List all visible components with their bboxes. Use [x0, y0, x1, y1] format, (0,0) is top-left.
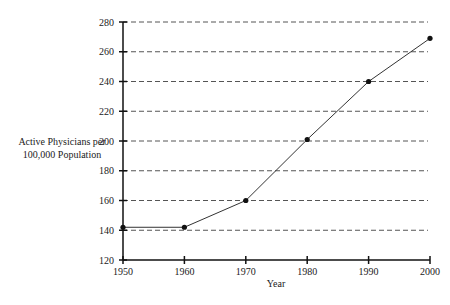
y-tick-label-260: 260	[99, 46, 114, 57]
x-axis-title: Year	[267, 278, 286, 289]
x-tick-label-2000: 2000	[420, 266, 440, 277]
x-tick-label-1990: 1990	[359, 266, 379, 277]
series-line	[123, 38, 430, 227]
y-axis-title-line-2: 100,000 Population	[23, 149, 101, 160]
y-tick-label-140: 140	[99, 225, 114, 236]
data-point-1960	[182, 225, 187, 230]
x-tick-label-1950: 1950	[113, 266, 133, 277]
data-point-2000	[427, 36, 432, 41]
y-tick-label-240: 240	[99, 76, 114, 87]
x-tick-label-1970: 1970	[236, 266, 256, 277]
y-tick-label-160: 160	[99, 195, 114, 206]
data-point-1990	[366, 79, 371, 84]
gridlines	[123, 22, 428, 230]
y-tick-label-120: 120	[99, 255, 114, 266]
data-point-1950	[120, 225, 125, 230]
data-point-1980	[305, 137, 310, 142]
y-tick-label-280: 280	[99, 17, 114, 28]
y-tick-label-220: 220	[99, 106, 114, 117]
y-axis-title-line-1: Active Physicians per	[18, 136, 106, 147]
line-chart: 120140160180200220240260280 195019601970…	[0, 0, 450, 305]
x-tick-label-1960: 1960	[174, 266, 194, 277]
x-axis-ticks: 195019601970198019902000	[113, 256, 440, 277]
y-tick-label-180: 180	[99, 165, 114, 176]
x-tick-label-1980: 1980	[297, 266, 317, 277]
data-point-1970	[243, 198, 248, 203]
